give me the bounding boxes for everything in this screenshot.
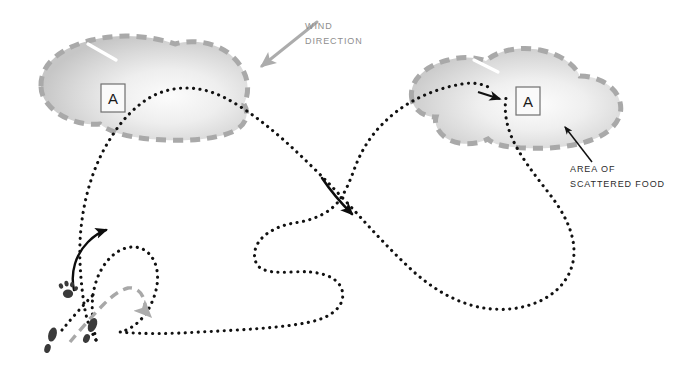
paw-print-icon (58, 281, 79, 298)
food-label-line-2: SCATTERED FOOD (570, 179, 665, 189)
wind-direction-label: WIND DIRECTION (305, 21, 363, 46)
wind-label-line-1: WIND (305, 21, 333, 31)
wind-label-line-2: DIRECTION (305, 36, 363, 46)
scattered-food-label: AREA OF SCATTERED FOOD (570, 164, 665, 189)
zone-label-right-text: A (523, 93, 533, 110)
scent-cone-left-shape (41, 36, 248, 140)
zone-label-right: A (516, 87, 540, 115)
food-label-line-1: AREA OF (570, 164, 615, 174)
travel-direction-arrow (322, 178, 352, 214)
zone-label-left-text: A (108, 90, 118, 107)
tracking-diagram: A A WIND DIRECTION AREA OF SCATTERED FOO… (0, 0, 675, 378)
scent-cone-left (41, 36, 248, 140)
start-direction-arrow (73, 230, 106, 290)
diagram-canvas: A A WIND DIRECTION AREA OF SCATTERED FOO… (0, 0, 675, 378)
boot-print-rear (43, 326, 58, 353)
zone-label-left: A (101, 84, 125, 112)
